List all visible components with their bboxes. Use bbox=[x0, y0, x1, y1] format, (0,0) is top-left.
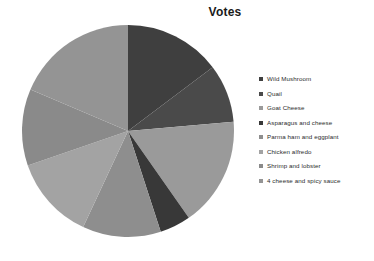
pie-svg bbox=[20, 22, 238, 242]
legend-item-label: Asparagus and cheese bbox=[267, 120, 332, 126]
legend-item[interactable]: Quail bbox=[259, 87, 373, 102]
legend-swatch-icon bbox=[259, 135, 263, 139]
legend-swatch-icon bbox=[259, 77, 263, 81]
legend-item-label: Parma ham and eggplant bbox=[267, 134, 339, 140]
legend-item-label: Chicken alfredo bbox=[267, 149, 312, 155]
legend-swatch-icon bbox=[259, 164, 263, 168]
chart-title: Votes bbox=[150, 5, 300, 19]
pie-slice-group bbox=[22, 25, 234, 237]
legend-swatch-icon bbox=[259, 92, 263, 96]
legend-item[interactable]: Asparagus and cheese bbox=[259, 116, 373, 131]
pie-plot-area bbox=[20, 22, 238, 242]
legend-item[interactable]: Parma ham and eggplant bbox=[259, 130, 373, 145]
legend-swatch-icon bbox=[259, 106, 263, 110]
legend-item-label: Wild Mushroom bbox=[267, 76, 311, 82]
legend-item-label: Goat Cheese bbox=[267, 105, 305, 111]
pie-chart-figure: Votes Wild MushroomQuailGoat CheeseAspar… bbox=[0, 0, 374, 261]
legend-item[interactable]: Shrimp and lobster bbox=[259, 159, 373, 174]
legend-item-label: 4 cheese and spicy sauce bbox=[267, 178, 341, 184]
legend-swatch-icon bbox=[259, 121, 263, 125]
legend-item[interactable]: Chicken alfredo bbox=[259, 145, 373, 160]
legend-swatch-icon bbox=[259, 150, 263, 154]
legend-swatch-icon bbox=[259, 179, 263, 183]
legend-item-label: Quail bbox=[267, 91, 282, 97]
legend-item[interactable]: 4 cheese and spicy sauce bbox=[259, 174, 373, 189]
legend-item[interactable]: Goat Cheese bbox=[259, 101, 373, 116]
chart-legend: Wild MushroomQuailGoat CheeseAsparagus a… bbox=[259, 72, 373, 188]
legend-item-label: Shrimp and lobster bbox=[267, 163, 321, 169]
legend-item[interactable]: Wild Mushroom bbox=[259, 72, 373, 87]
